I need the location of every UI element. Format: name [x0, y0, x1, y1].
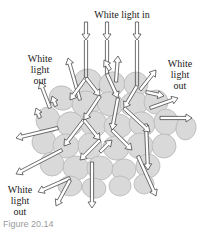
particle [109, 176, 131, 196]
scattered-light-arrow [104, 60, 112, 71]
white-light-out-bottom-label: White light out [2, 184, 38, 217]
incoming-light-arrow [82, 22, 90, 40]
white-light-in-label: White light in [82, 9, 162, 20]
white-light-out-left-label: White light out [22, 53, 58, 86]
figure-caption: Figure 20.14 [3, 219, 54, 229]
incoming-light-arrow [103, 22, 111, 40]
incoming-light-arrow [133, 22, 141, 40]
white-light-out-right-label: White light out [162, 58, 198, 91]
particle [154, 109, 178, 135]
